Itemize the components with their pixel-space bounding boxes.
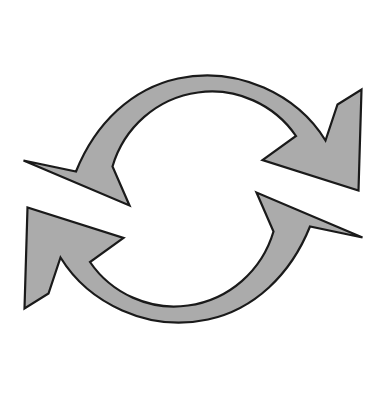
background-rect: [0, 0, 387, 397]
image-canvas: [0, 0, 387, 397]
cycle-arrows-illustration: [0, 0, 387, 397]
